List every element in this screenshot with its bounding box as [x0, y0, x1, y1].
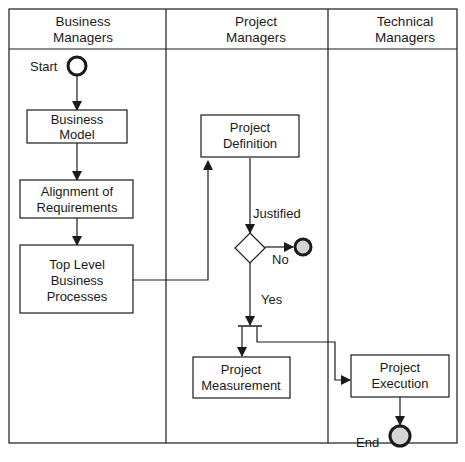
lane-header-project-managers: Project Managers [226, 14, 286, 45]
activity-project-execution: Project Execution [351, 355, 449, 397]
no-label: No [272, 252, 289, 267]
svg-text:Business: Business [51, 112, 104, 127]
activity-alignment-of-requirements: Alignment of Requirements [20, 180, 133, 218]
start-node: Start [30, 57, 86, 75]
justified-label: Justified [253, 206, 301, 221]
svg-text:Technical: Technical [377, 14, 433, 29]
svg-text:Top Level: Top Level [49, 257, 105, 272]
swimlane-activity-diagram: Business Managers Project Managers Techn… [0, 0, 465, 462]
activity-business-model: Business Model [27, 110, 127, 143]
lane-header-technical-managers: Technical Managers [375, 14, 435, 45]
svg-text:Measurement: Measurement [201, 378, 281, 393]
activity-project-measurement: Project Measurement [193, 357, 290, 398]
yes-label: Yes [261, 292, 283, 307]
svg-text:Business: Business [56, 14, 111, 29]
svg-text:Business: Business [51, 273, 104, 288]
svg-text:Processes: Processes [47, 289, 108, 304]
svg-text:Execution: Execution [371, 376, 428, 391]
activity-top-level-business-processes: Top Level Business Processes [20, 245, 133, 313]
rejected-end-icon [295, 239, 311, 255]
activity-project-definition: Project Definition [201, 115, 299, 157]
decision-diamond-icon [235, 233, 265, 263]
end-circle-icon [390, 426, 410, 446]
svg-text:Start: Start [30, 59, 58, 74]
svg-text:Managers: Managers [53, 30, 113, 45]
start-circle-icon [68, 57, 86, 75]
svg-text:Project: Project [235, 14, 277, 29]
svg-text:Project: Project [230, 120, 271, 135]
svg-text:Alignment of: Alignment of [41, 184, 114, 199]
decision-justified: Justified No Yes [235, 206, 301, 307]
svg-text:Managers: Managers [226, 30, 286, 45]
svg-text:Managers: Managers [375, 30, 435, 45]
svg-text:End: End [356, 435, 379, 450]
svg-text:Project: Project [221, 362, 262, 377]
svg-text:Model: Model [59, 127, 95, 142]
lane-header-business-managers: Business Managers [53, 14, 113, 45]
svg-text:Definition: Definition [223, 136, 277, 151]
svg-text:Project: Project [380, 360, 421, 375]
svg-text:Requirements: Requirements [37, 200, 118, 215]
end-node: End [356, 426, 410, 450]
